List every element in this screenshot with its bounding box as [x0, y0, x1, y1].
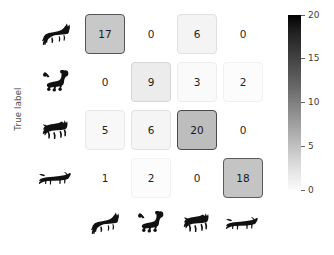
colorbar-tick-15: 15 — [301, 54, 319, 64]
german-shepherd-silhouette-icon — [39, 23, 73, 45]
colorbar-tick-labels: 20151050 — [301, 15, 334, 190]
colorbar-tick-mark — [301, 146, 305, 147]
colorbar-tick-10: 10 — [301, 98, 319, 108]
colorbar-tick-mark — [301, 58, 305, 59]
x-tick-german-shepherd — [82, 206, 128, 240]
matrix-cell-value: 3 — [194, 77, 201, 88]
matrix-cell-r1-c3: 2 — [220, 58, 266, 106]
y-axis-label: True label — [13, 69, 23, 149]
dachshund-silhouette-icon — [226, 214, 260, 232]
matrix-cell-value: 1 — [102, 173, 109, 184]
matrix-cell-value: 9 — [148, 77, 155, 88]
y-tick-pug — [34, 106, 78, 154]
german-shepherd-silhouette-icon — [88, 212, 122, 234]
matrix-cell-value: 0 — [240, 125, 247, 136]
confusion-matrix-figure: True label — [0, 0, 334, 255]
matrix-cell-value: 0 — [148, 29, 155, 40]
matrix-cell-r1-c1: 9 — [128, 58, 174, 106]
colorbar-gradient — [288, 15, 301, 190]
matrix-cell-r0-c3: 0 — [220, 10, 266, 58]
poodle-silhouette-icon — [137, 211, 165, 235]
matrix-cell-value: 18 — [236, 173, 249, 184]
matrix-cell-value: 0 — [240, 29, 247, 40]
matrix-cell-value: 2 — [240, 77, 247, 88]
matrix-cell-r0-c1: 0 — [128, 10, 174, 58]
colorbar-tick-20: 20 — [301, 10, 319, 20]
colorbar-tick-mark — [301, 190, 305, 191]
matrix-cell-value: 20 — [190, 125, 203, 136]
colorbar-tick-label: 15 — [308, 54, 319, 63]
x-axis-tick-icons — [82, 206, 266, 240]
matrix-cell-r2-c0: 5 — [82, 106, 128, 154]
colorbar-tick-mark — [301, 102, 305, 103]
colorbar-tick-5: 5 — [301, 141, 314, 151]
matrix-cell-r2-c1: 6 — [128, 106, 174, 154]
x-tick-dachshund — [220, 206, 266, 240]
matrix-cell-r0-c0: 17 — [82, 10, 128, 58]
colorbar-tick-label: 10 — [308, 98, 319, 107]
colorbar-tick-label: 0 — [308, 186, 314, 195]
matrix-cell-value: 0 — [102, 77, 109, 88]
matrix-cell-r0-c2: 6 — [174, 10, 220, 58]
matrix-cell-r2-c2: 20 — [174, 106, 220, 154]
y-tick-poodle — [34, 58, 78, 106]
confusion-matrix-grid: 1706009325620012018 — [82, 10, 266, 202]
matrix-cell-r2-c3: 0 — [220, 106, 266, 154]
y-tick-dachshund — [34, 154, 78, 202]
y-tick-german-shepherd — [34, 10, 78, 58]
colorbar-tick-mark — [301, 15, 305, 16]
pug-silhouette-icon — [183, 212, 211, 234]
matrix-cell-value: 0 — [194, 173, 201, 184]
poodle-silhouette-icon — [42, 70, 70, 94]
pug-silhouette-icon — [42, 119, 70, 141]
matrix-cell-r3-c0: 1 — [82, 154, 128, 202]
x-tick-pug — [174, 206, 220, 240]
matrix-cell-r3-c3: 18 — [220, 154, 266, 202]
colorbar-tick-label: 20 — [308, 11, 319, 20]
matrix-cell-r1-c2: 3 — [174, 58, 220, 106]
colorbar-tick-label: 5 — [308, 142, 314, 151]
matrix-cell-r3-c2: 0 — [174, 154, 220, 202]
dachshund-silhouette-icon — [39, 169, 73, 187]
colorbar-tick-0: 0 — [301, 185, 314, 195]
matrix-cell-value: 6 — [194, 29, 201, 40]
matrix-cell-r3-c1: 2 — [128, 154, 174, 202]
matrix-cell-value: 6 — [148, 125, 155, 136]
matrix-cell-value: 5 — [102, 125, 109, 136]
matrix-cell-r1-c0: 0 — [82, 58, 128, 106]
x-tick-poodle — [128, 206, 174, 240]
matrix-cell-value: 2 — [148, 173, 155, 184]
matrix-cell-value: 17 — [98, 29, 111, 40]
